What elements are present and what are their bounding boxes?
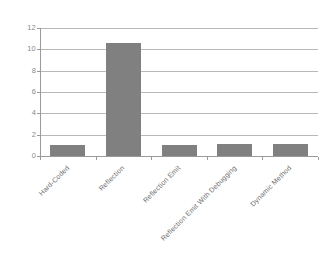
x-axis-category-label: Reflection Emit	[35, 164, 181, 273]
x-axis-line	[40, 156, 318, 157]
gridline	[40, 113, 318, 114]
x-axis-category-label: Dynamic Method	[146, 164, 292, 273]
x-axis-tick-mark	[262, 157, 263, 160]
gridline	[40, 71, 318, 72]
bar	[50, 145, 85, 156]
y-axis-tick-mark	[37, 113, 40, 114]
y-axis-tick-mark	[37, 49, 40, 50]
y-axis-line	[40, 28, 41, 157]
gridline	[40, 92, 318, 93]
x-axis-category-label: Reflection	[0, 164, 126, 273]
bar	[273, 144, 308, 156]
x-axis-tick-mark	[40, 157, 41, 160]
y-axis-tick-mark	[37, 28, 40, 29]
bar	[217, 144, 252, 156]
y-axis-tick-label: 10	[6, 46, 36, 54]
x-axis-category-label: Reflection Emit With Debugging	[91, 164, 237, 273]
y-axis-tick-labels: 024681012	[0, 28, 36, 156]
x-axis-tick-mark	[151, 157, 152, 160]
y-axis-tick-label: 8	[6, 67, 36, 75]
x-axis-tick-mark	[96, 157, 97, 160]
bar	[162, 145, 197, 156]
y-axis-tick-mark	[37, 92, 40, 93]
y-axis-tick-label: 12	[6, 24, 36, 32]
y-axis-tick-label: 6	[6, 88, 36, 96]
bar	[106, 43, 141, 156]
y-axis-tick-mark	[37, 71, 40, 72]
bar-chart: 024681012 Hard-CodedReflectionReflection…	[0, 0, 334, 273]
y-axis-tick-label: 0	[6, 152, 36, 160]
y-axis-tick-label: 4	[6, 110, 36, 118]
x-axis-tick-mark	[318, 157, 319, 160]
gridline	[40, 28, 318, 29]
y-axis-tick-mark	[37, 135, 40, 136]
gridline	[40, 49, 318, 50]
x-axis-tick-mark	[207, 157, 208, 160]
y-axis-tick-label: 2	[6, 131, 36, 139]
gridline	[40, 135, 318, 136]
plot-area	[40, 28, 318, 156]
x-axis-category-label: Hard-Coded	[0, 164, 70, 273]
